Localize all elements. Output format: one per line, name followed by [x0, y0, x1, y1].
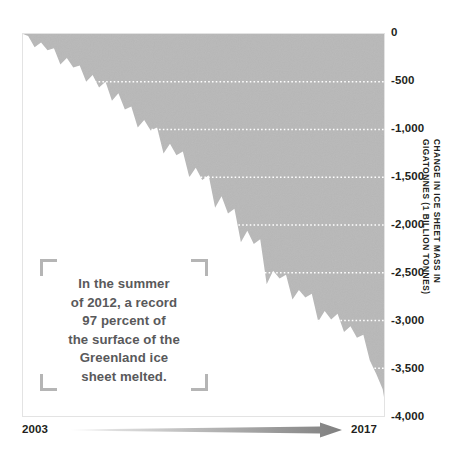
- y-axis-tick-label: 0: [391, 27, 398, 39]
- y-axis-tick-label: -1,000: [391, 123, 424, 135]
- y-axis-title: CHANGE IN ICE SHEET MASS IN GIGATONNES (…: [421, 139, 442, 329]
- x-axis-end-label: 2017: [351, 424, 377, 436]
- bracket-top-right-icon: [191, 259, 208, 276]
- y-axis-tick-label: -4,000: [391, 411, 424, 423]
- annotation-text: In the summer of 2012, a record 97 perce…: [40, 275, 208, 387]
- x-axis-start-label: 2003: [22, 424, 48, 436]
- annotation-callout: In the summer of 2012, a record 97 perce…: [40, 259, 208, 391]
- y-axis-tick-label: -1,500: [391, 171, 424, 183]
- time-direction-arrow-icon: [70, 421, 342, 439]
- y-axis-tick-label: -2,500: [391, 267, 424, 279]
- chart-root: 0-500-1,000-1,500-2,000-2,500-3,000-3,50…: [0, 0, 475, 468]
- y-axis-tick-label: -3,000: [391, 315, 424, 327]
- y-axis-tick-label: -2,000: [391, 219, 424, 231]
- bracket-top-left-icon: [40, 259, 57, 276]
- y-axis-tick-label: -500: [391, 75, 414, 87]
- y-axis-tick-label: -3,500: [391, 363, 424, 375]
